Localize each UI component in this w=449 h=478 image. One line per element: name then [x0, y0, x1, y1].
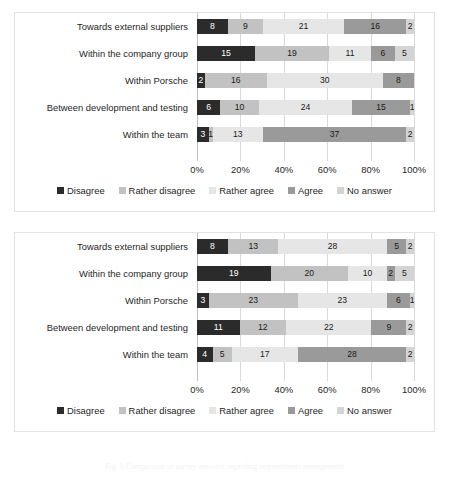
stacked-bar[interactable]: 19201025: [197, 266, 414, 281]
legend-item[interactable]: No answer: [337, 185, 392, 196]
bar-value-label: 17: [260, 350, 270, 359]
bar-segment[interactable]: 30: [267, 73, 383, 88]
bar-segment[interactable]: 13: [228, 239, 278, 254]
bar-value-label: 21: [299, 22, 309, 31]
bar-segment[interactable]: 4: [197, 347, 213, 362]
stacked-bar[interactable]: 61024151: [197, 100, 414, 115]
stacked-bar[interactable]: 11122292: [197, 320, 414, 335]
legend-1: DisagreeRather disagreeRather agreeAgree…: [15, 181, 434, 198]
legend-item[interactable]: Rather agree: [209, 185, 274, 196]
legend-label: Agree: [298, 405, 323, 416]
bar-segment[interactable]: 8: [197, 239, 228, 254]
bar-segment[interactable]: 1: [410, 100, 414, 115]
stacked-bar[interactable]: 15191165: [197, 46, 414, 61]
bar-segment[interactable]: 17: [232, 347, 298, 362]
category-label: Within the company group: [15, 268, 197, 279]
stacked-bar[interactable]: 4517282: [197, 347, 414, 362]
bar-segment[interactable]: 2: [406, 127, 414, 142]
bar-value-label: 5: [402, 269, 407, 278]
bar-segment[interactable]: 13: [213, 127, 263, 142]
x-axis-1: 0%20%40%60%80%100%: [197, 161, 414, 181]
bar-row: Between development and testing61024151: [15, 94, 434, 121]
bar-value-label: 28: [328, 242, 338, 251]
bar-segment[interactable]: 15: [197, 46, 255, 61]
bar-segment[interactable]: 2: [406, 239, 414, 254]
bar-segment[interactable]: 16: [344, 19, 406, 34]
stacked-bar[interactable]: 2163080: [197, 73, 414, 88]
legend-item[interactable]: Rather disagree: [119, 185, 196, 196]
bar-segment[interactable]: 2: [406, 19, 414, 34]
bar-segment[interactable]: 1: [410, 293, 414, 308]
bar-value-label: 6: [396, 296, 401, 305]
bar-segment[interactable]: 10: [220, 100, 259, 115]
bar-row: Towards external suppliers8921162: [15, 13, 434, 40]
bar-segment[interactable]: 23: [298, 293, 387, 308]
bar-segment[interactable]: 9: [371, 320, 406, 335]
bar-segment[interactable]: 8: [383, 73, 414, 88]
bar-value-label: 10: [363, 269, 373, 278]
category-label: Within Porsche: [15, 295, 197, 306]
bar-segment[interactable]: 23: [209, 293, 298, 308]
bar-segment[interactable]: 16: [205, 73, 267, 88]
bar-segment[interactable]: 2: [406, 320, 414, 335]
bar-segment[interactable]: 28: [278, 239, 387, 254]
stacked-bar[interactable]: 3232361: [197, 293, 414, 308]
legend-item[interactable]: Disagree: [57, 185, 105, 196]
bar-segment[interactable]: 9: [228, 19, 263, 34]
bar-segment[interactable]: 6: [197, 100, 220, 115]
bar-segment[interactable]: 2: [387, 266, 395, 281]
bar-row: Within the company group15191165: [15, 40, 434, 67]
bar-value-label: 5: [394, 242, 399, 251]
legend-label: Agree: [298, 185, 323, 196]
bar-value-label: 11: [346, 49, 355, 58]
legend-item[interactable]: Agree: [288, 405, 323, 416]
bar-segment[interactable]: 12: [240, 320, 287, 335]
bar-segment[interactable]: 22: [286, 320, 371, 335]
bar-segment[interactable]: 3: [197, 293, 209, 308]
bar-segment[interactable]: 6: [371, 46, 394, 61]
bar-segment[interactable]: 2: [406, 347, 414, 362]
legend-label: Rather agree: [219, 185, 274, 196]
bar-value-label: 15: [221, 49, 231, 58]
bar-value-label: 8: [210, 242, 215, 251]
bar-segment[interactable]: 5: [395, 46, 414, 61]
bar-value-label: 22: [324, 323, 334, 332]
bar-segment[interactable]: 19: [255, 46, 329, 61]
plot-area-1: Towards external suppliers8921162Within …: [15, 13, 434, 161]
stacked-bar[interactable]: 3113372: [197, 127, 414, 142]
category-label: Between development and testing: [15, 322, 197, 333]
bar-segment[interactable]: 28: [298, 347, 407, 362]
bar-segment[interactable]: 11: [197, 320, 240, 335]
bar-segment[interactable]: 5: [395, 266, 414, 281]
bar-value-label: 30: [320, 76, 330, 85]
bar-segment[interactable]: 2: [197, 73, 205, 88]
bar-segment[interactable]: 15: [352, 100, 410, 115]
figure-caption: Fig. 9 Comparison of survey answers rega…: [0, 462, 449, 471]
legend-item[interactable]: Disagree: [57, 405, 105, 416]
legend-item[interactable]: Rather agree: [209, 405, 274, 416]
bar-segment[interactable]: 20: [271, 266, 349, 281]
bar-value-label: 10: [235, 103, 245, 112]
bar-segment[interactable]: 5: [213, 347, 232, 362]
stacked-bar[interactable]: 8921162: [197, 19, 414, 34]
bar-segment[interactable]: 24: [259, 100, 352, 115]
bar-row: Within the team4517282: [15, 341, 434, 368]
bar-segment[interactable]: 8: [197, 19, 228, 34]
stacked-bar[interactable]: 8132852: [197, 239, 414, 254]
legend-label: Disagree: [67, 185, 105, 196]
legend-item[interactable]: Rather disagree: [119, 405, 196, 416]
bar-segment[interactable]: 3: [197, 127, 209, 142]
bar-segment[interactable]: 11: [329, 46, 372, 61]
bar-segment[interactable]: 37: [263, 127, 406, 142]
category-label: Towards external suppliers: [15, 21, 197, 32]
bar-segment[interactable]: 19: [197, 266, 271, 281]
bar-segment[interactable]: 21: [263, 19, 344, 34]
legend-item[interactable]: No answer: [337, 405, 392, 416]
bar-row: Towards external suppliers8132852: [15, 233, 434, 260]
bar-segment[interactable]: 6: [387, 293, 410, 308]
bar-rows-1: Towards external suppliers8921162Within …: [15, 13, 434, 148]
bar-value-label: 2: [408, 22, 413, 31]
legend-item[interactable]: Agree: [288, 185, 323, 196]
bar-segment[interactable]: 10: [348, 266, 387, 281]
bar-segment[interactable]: 5: [387, 239, 406, 254]
